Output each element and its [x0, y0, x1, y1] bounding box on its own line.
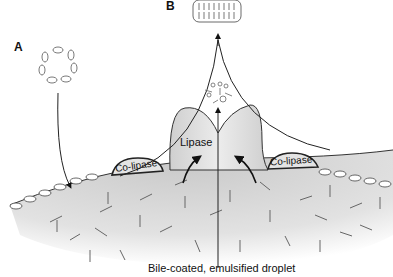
- micelle: [39, 47, 77, 83]
- panel-label-a: A: [14, 40, 23, 54]
- bilayer-vesicle: [193, 0, 241, 22]
- panel-label-b: B: [166, 0, 175, 13]
- droplet-caption: Bile-coated, emulsified droplet: [148, 262, 295, 274]
- lipase-label: Lipase: [180, 136, 212, 148]
- arrow-micelle-to-droplet: [58, 93, 70, 186]
